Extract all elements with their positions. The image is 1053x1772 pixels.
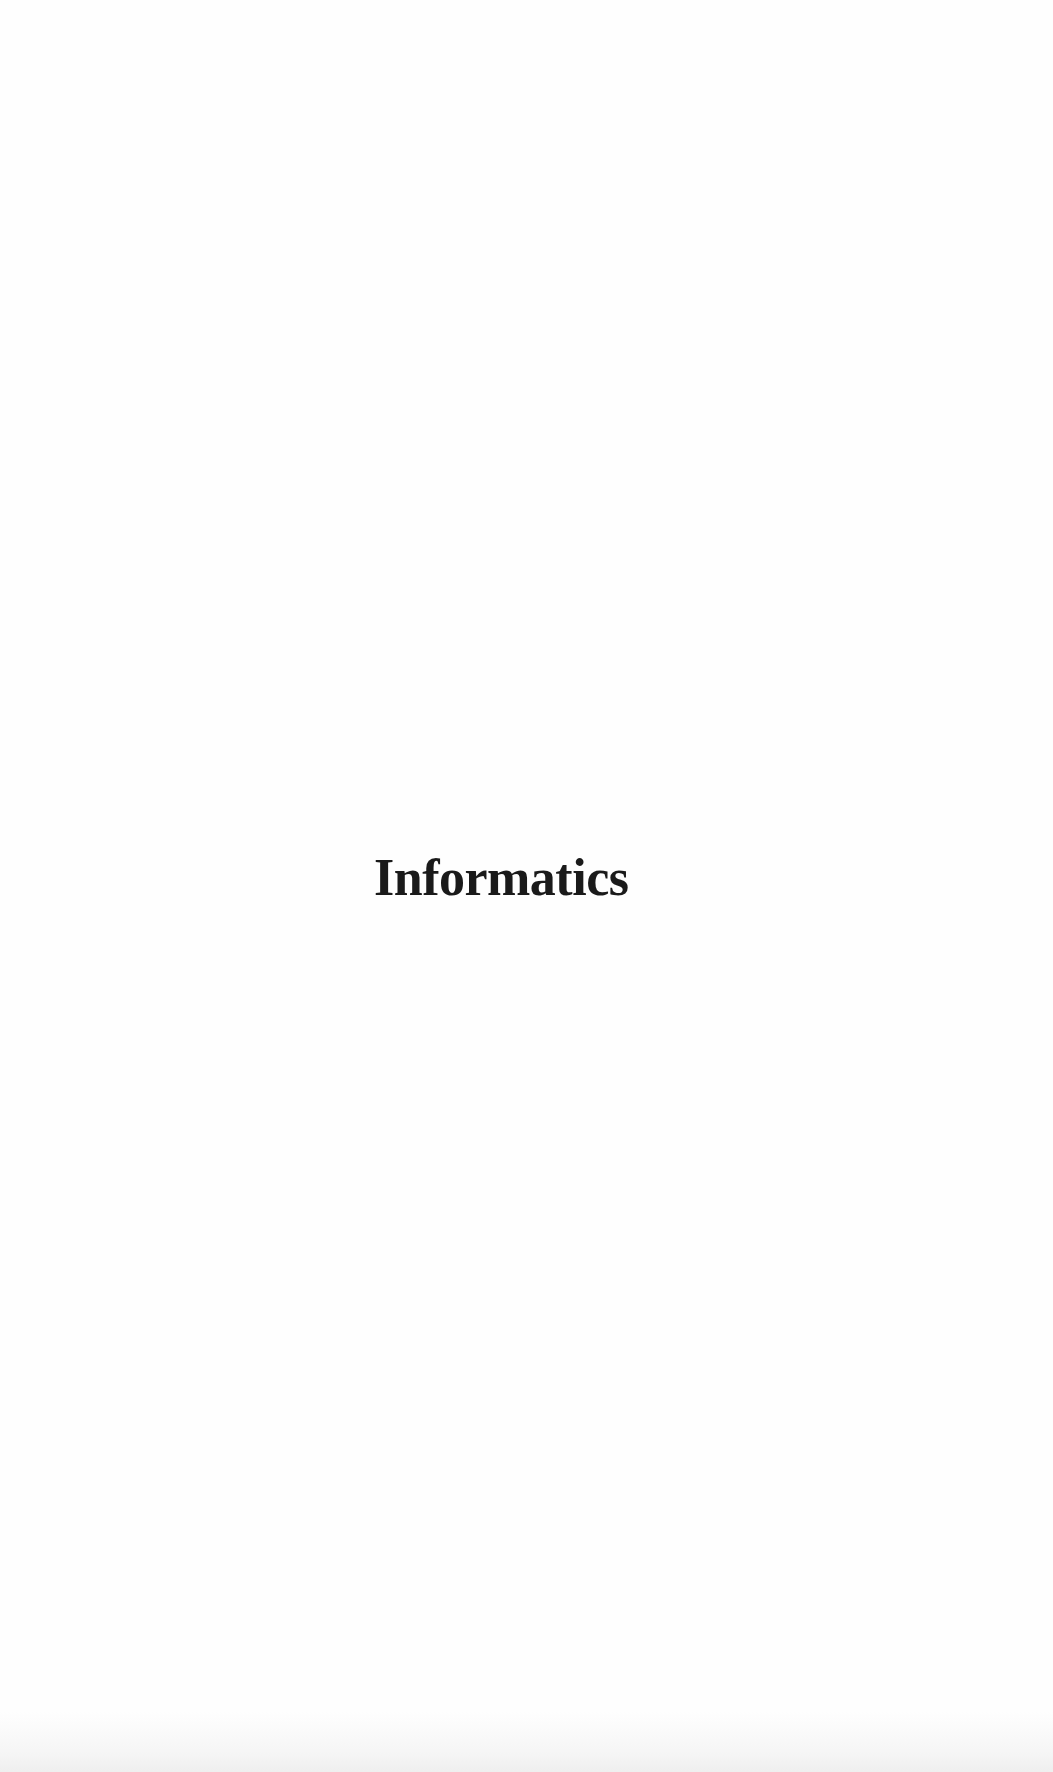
- scan-texture: [0, 1712, 1053, 1772]
- document-page: Informatics: [0, 0, 1053, 1772]
- section-title: Informatics: [374, 846, 628, 910]
